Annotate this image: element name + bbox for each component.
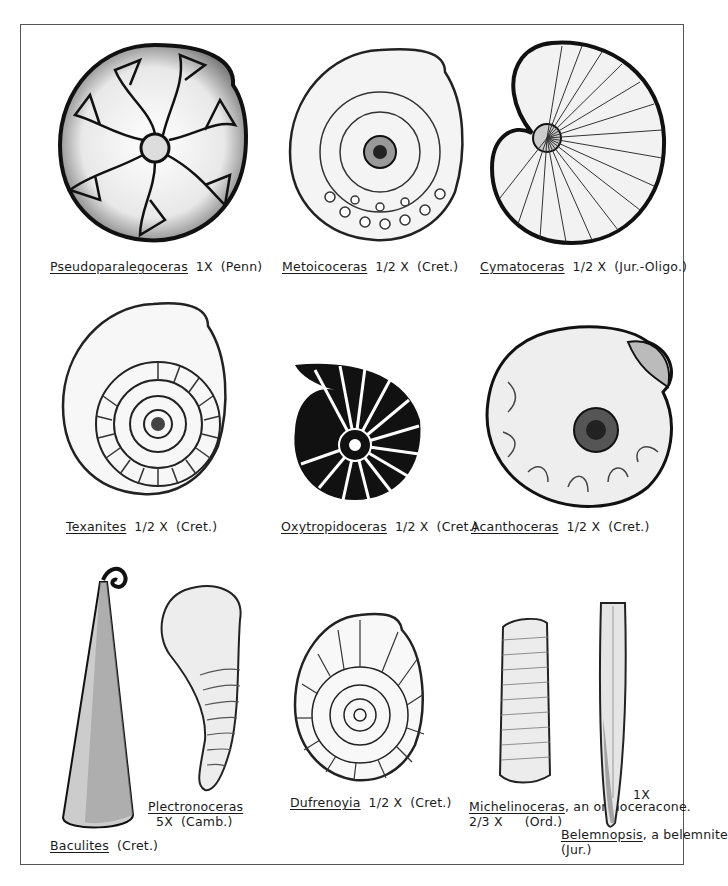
- metoicoceras-drawing: [285, 42, 470, 247]
- scale: 1/2 X: [134, 519, 168, 534]
- genus-name: Metoicoceras: [282, 259, 367, 274]
- belemnopsis-label: Belemnopsis, a belemnite (Jur.): [561, 827, 728, 857]
- geologic-period: (Penn): [221, 259, 263, 274]
- dufrenoyia-label: Dufrenoyia1/2 X(Cret.): [290, 795, 452, 810]
- scale: 1/2 X: [395, 519, 429, 534]
- scale: 1X: [196, 259, 213, 274]
- scale: 1/2 X: [573, 259, 607, 274]
- scale: 2/3 X: [469, 814, 503, 829]
- geologic-period: (Cret.): [417, 259, 458, 274]
- scale: 1/2 X: [375, 259, 409, 274]
- baculites-drawing: [55, 560, 140, 835]
- scale: 1X: [633, 787, 650, 802]
- genus-name: Belemnopsis: [561, 827, 643, 842]
- belemnopsis-drawing: [593, 598, 633, 828]
- texanites-drawing: [58, 296, 238, 501]
- geologic-period: (Cret.): [176, 519, 217, 534]
- geologic-period: (Camb.): [181, 814, 233, 829]
- genus-name: Pseudoparalegoceras: [50, 259, 188, 274]
- scale: 1/2 X: [369, 795, 403, 810]
- acanthoceras-label: Acanthoceras1/2 X(Cret.): [471, 519, 650, 534]
- baculites-label: Baculites(Cret.): [50, 838, 158, 853]
- texanites-label: Texanites1/2 X(Cret.): [66, 519, 217, 534]
- acanthoceras-drawing: [478, 322, 678, 512]
- michelinoceras-drawing: [495, 615, 555, 785]
- geologic-period: (Cret.): [410, 795, 451, 810]
- genus-name: Oxytropidoceras: [281, 519, 387, 534]
- pseudoparalegoceras-drawing: [55, 40, 255, 245]
- description: , a belemnite: [643, 827, 728, 842]
- dufrenoyia-drawing: [290, 610, 430, 785]
- geologic-period: (Cret.): [117, 838, 158, 853]
- genus-name: Baculites: [50, 838, 109, 853]
- genus-name: Cymatoceras: [480, 259, 565, 274]
- michelinoceras-label: Michelinoceras, an orthoceracone. 2/3 X(…: [469, 799, 691, 829]
- oxytropidoceras-drawing: [285, 360, 425, 505]
- belemnopsis-scale-label: 1X: [633, 787, 650, 802]
- genus-name: Acanthoceras: [471, 519, 559, 534]
- geologic-period: (Cret.): [608, 519, 649, 534]
- genus-name: Michelinoceras: [469, 799, 565, 814]
- genus-name: Dufrenoyia: [290, 795, 361, 810]
- genus-name: Texanites: [66, 519, 126, 534]
- genus-name: Plectronoceras: [148, 799, 243, 814]
- cymatoceras-label: Cymatoceras1/2 X(Jur.-Oligo.): [480, 259, 687, 274]
- cymatoceras-drawing: [482, 38, 667, 248]
- geologic-period: (Jur.): [561, 842, 592, 857]
- metoicoceras-label: Metoicoceras1/2 X(Cret.): [282, 259, 458, 274]
- scale: 5X: [156, 814, 173, 829]
- plectronoceras-label: Plectronoceras 5X(Camb.): [148, 799, 243, 829]
- geologic-period: (Ord.): [525, 814, 563, 829]
- scale: 1/2 X: [567, 519, 601, 534]
- oxytropidoceras-label: Oxytropidoceras1/2 X(Cret.): [281, 519, 478, 534]
- geologic-period: (Jur.-Oligo.): [614, 259, 687, 274]
- plectronoceras-drawing: [145, 580, 255, 795]
- pseudoparalegoceras-label: Pseudoparalegoceras1X(Penn): [50, 259, 262, 274]
